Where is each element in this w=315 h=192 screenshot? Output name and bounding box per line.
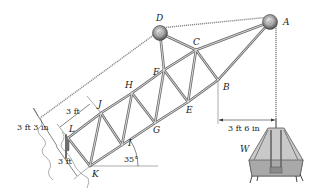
dimension-labels: 3 ft 3 ft 3 in 3 ft 3 ft 6 in 35° (17, 107, 260, 166)
cable-D-A (160, 17, 270, 28)
dim-offset: 3 ft 6 in (228, 124, 260, 133)
dim-depth: 3 ft 3 in (17, 123, 49, 132)
label-W: W (240, 144, 250, 154)
pulley-A (263, 15, 278, 30)
label-J: J (96, 99, 103, 109)
dim-panel-bottom: 3 ft (58, 157, 73, 166)
label-A: A (282, 17, 290, 27)
truss-diagram: D A C B F E H G J I L K W 3 ft 3 ft 3 in… (0, 0, 315, 192)
label-H: H (124, 80, 133, 90)
label-I: I (127, 138, 132, 148)
label-F: F (152, 67, 160, 77)
pulley-D (153, 26, 168, 41)
label-B: B (222, 82, 230, 92)
label-E: E (185, 105, 193, 115)
label-K: K (91, 169, 100, 179)
label-D: D (155, 13, 163, 23)
label-C: C (193, 37, 200, 47)
label-L: L (68, 124, 75, 134)
label-G: G (153, 125, 160, 135)
dim-angle: 35° (124, 155, 138, 164)
dim-panel-top: 3 ft (66, 107, 81, 116)
